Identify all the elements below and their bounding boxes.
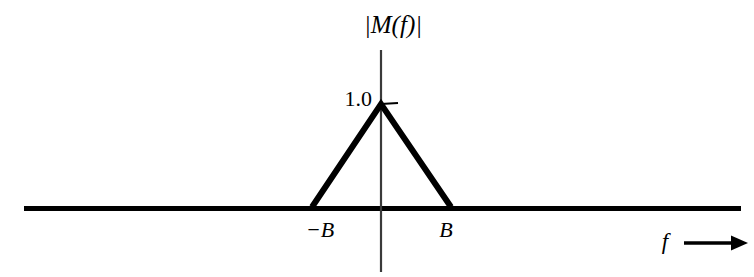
signal-spectrum-figure: |M(f)| 1.0 −B B f <box>0 0 754 277</box>
x-axis-arrow-icon <box>684 236 748 251</box>
x-axis-tick-label-positive-b: B <box>439 219 452 241</box>
y-axis-tick-label-1: 1.0 <box>345 88 373 110</box>
x-axis-title: f <box>662 230 668 253</box>
x-axis-tick-label-negative-b: −B <box>306 219 334 241</box>
y-axis-title: |M(f)| <box>364 12 422 37</box>
spectrum-plot-svg <box>0 0 754 277</box>
